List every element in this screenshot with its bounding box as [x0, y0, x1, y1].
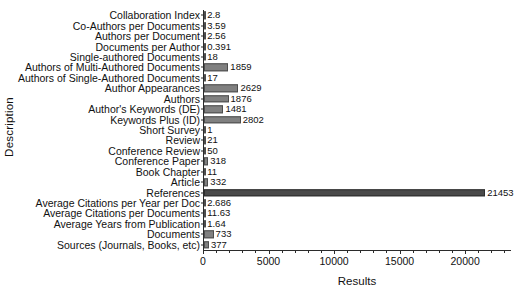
x-axis-minor-tick [452, 250, 453, 253]
x-axis-minor-tick [386, 250, 387, 253]
bar[interactable] [204, 116, 241, 123]
bar-row: Average Citations per Documents11.63 [204, 208, 511, 218]
x-axis-minor-tick [491, 250, 492, 253]
bar[interactable] [204, 74, 206, 81]
x-axis-minor-tick [347, 250, 348, 253]
bar-row: Authors per Document2.56 [204, 31, 511, 41]
bar-row: Average Citations per Year per Doc2.686 [204, 198, 511, 208]
x-axis-major-tick [400, 250, 401, 254]
plot-area: Collaboration Index2.8Co-Authors per Doc… [203, 10, 511, 250]
bar-value-label: 17 [207, 73, 218, 83]
bar-row: Conference Paper318 [204, 156, 511, 166]
y-axis-title: Description [2, 2, 16, 252]
bar-row: Short Survey1 [204, 125, 511, 135]
bar-value-label: 1859 [230, 62, 251, 72]
bar[interactable] [204, 95, 229, 102]
bar-value-label: 377 [211, 240, 227, 250]
bar-row: Conference Review50 [204, 146, 511, 156]
bar-row: Collaboration Index2.8 [204, 10, 511, 20]
category-label: Sources (Journals, Books, etc) [57, 239, 200, 250]
bar[interactable] [204, 53, 206, 60]
bar[interactable] [204, 12, 206, 19]
x-axis-minor-tick [255, 250, 256, 253]
x-axis-minor-tick [413, 250, 414, 253]
x-axis-minor-tick [360, 250, 361, 253]
x-axis-minor-tick [242, 250, 243, 253]
bar[interactable] [204, 64, 228, 71]
x-axis-minor-tick [216, 250, 217, 253]
x-axis-minor-tick [426, 250, 427, 253]
x-axis-major-tick [203, 250, 204, 254]
x-axis-major-tick [269, 250, 270, 254]
x-axis-minor-tick [504, 250, 505, 253]
x-axis-major-tick [334, 250, 335, 254]
x-axis-minor-tick [478, 250, 479, 253]
x-axis-tick-label: 5000 [257, 255, 280, 267]
bar[interactable] [204, 178, 208, 185]
bar-row: Documents per Author0.391 [204, 41, 511, 51]
x-axis-minor-tick [282, 250, 283, 253]
bar[interactable] [204, 220, 206, 227]
bar[interactable] [204, 137, 206, 144]
bar-row: Review21 [204, 135, 511, 145]
x-axis-minor-tick [373, 250, 374, 253]
bar-row: Keywords Plus (ID)2802 [204, 114, 511, 124]
x-axis-tick-label: 10000 [319, 255, 348, 267]
bar[interactable] [204, 105, 223, 112]
bar-row: Article332 [204, 177, 511, 187]
bar[interactable] [204, 189, 485, 196]
bar[interactable] [204, 210, 206, 217]
bar-row: Co-Authors per Documents3.59 [204, 20, 511, 30]
bar[interactable] [204, 85, 238, 92]
bar[interactable] [204, 158, 208, 165]
bar[interactable] [204, 32, 206, 39]
bar-value-label: 332 [210, 177, 226, 187]
bar-row: Documents733 [204, 229, 511, 239]
bar[interactable] [204, 147, 206, 154]
x-axis-minor-tick [321, 250, 322, 253]
x-axis-tick-label: 0 [200, 255, 206, 267]
bar-value-label: 18 [207, 52, 218, 62]
bar-row: Book Chapter11 [204, 167, 511, 177]
bar[interactable] [204, 126, 206, 133]
x-axis-tick-label: 20000 [451, 255, 480, 267]
bar[interactable] [204, 22, 206, 29]
x-axis-tick-label: 15000 [385, 255, 414, 267]
x-axis-title: Results [203, 275, 511, 287]
x-axis-minor-tick [295, 250, 296, 253]
bar-row: Average Years from Publication1.64 [204, 219, 511, 229]
bar-row: Authors of Multi-Authored Documents1859 [204, 62, 511, 72]
bar-value-label: 21453 [487, 188, 513, 198]
bar-row: Authors1876 [204, 93, 511, 103]
bar[interactable] [204, 199, 206, 206]
x-axis-minor-tick [439, 250, 440, 253]
x-axis-minor-tick [308, 250, 309, 253]
bar[interactable] [204, 168, 206, 175]
bibliometrix-main-information-bar-chart: Description Collaboration Index2.8Co-Aut… [0, 0, 524, 300]
x-axis-major-tick [465, 250, 466, 254]
x-axis-minor-tick [229, 250, 230, 253]
bar-row: Sources (Journals, Books, etc)377 [204, 240, 511, 250]
bar-row: References21453 [204, 187, 511, 197]
bar[interactable] [204, 241, 209, 248]
bar-value-label: 2802 [243, 115, 264, 125]
bar[interactable] [204, 231, 214, 238]
bar[interactable] [204, 43, 206, 50]
